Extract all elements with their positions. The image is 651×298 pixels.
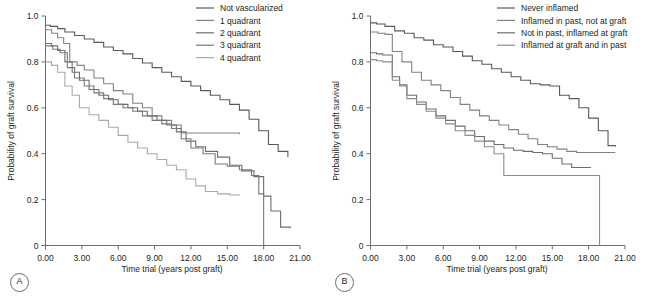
y-tick-label: 0.2 [352, 195, 364, 205]
y-tick-label: 0.8 [352, 57, 364, 67]
panel-b-axes [371, 16, 626, 246]
panel-b-x-ticks: 0.003.006.009.0012.0015.0018.0021.00 [362, 246, 636, 263]
x-tick-label: 15.00 [217, 253, 239, 263]
x-tick-label: 18.00 [578, 253, 600, 263]
x-tick-label: 0.00 [37, 253, 54, 263]
y-tick-label: 0.4 [27, 149, 39, 159]
x-tick-label: 15.00 [542, 253, 564, 263]
panel-b-legend: Never inflamedInflamed in past, not at g… [497, 3, 628, 50]
survival-curve [371, 60, 600, 246]
x-tick-label: 3.00 [74, 253, 91, 263]
legend-label: Inflamed in past, not at graft [521, 16, 627, 26]
panel-a-x-ticks: 0.003.006.009.0012.0015.0018.0021.00 [37, 246, 311, 263]
x-tick-label: 9.00 [146, 253, 163, 263]
panel-a-legend: Not vascularized1 quadrant2 quadrant3 qu… [196, 3, 283, 63]
panel-b-curves [371, 23, 616, 246]
survival-curve [46, 46, 264, 246]
survival-figure: 00.20.40.60.81.0 0.003.006.009.0012.0015… [0, 0, 651, 298]
y-tick-label: 1.0 [27, 11, 39, 21]
x-tick-label: 3.00 [399, 253, 416, 263]
x-tick-label: 0.00 [362, 253, 379, 263]
x-tick-label: 21.00 [614, 253, 636, 263]
y-tick-label: 0.6 [352, 103, 364, 113]
legend-label: 1 quadrant [220, 16, 261, 26]
x-tick-label: 6.00 [435, 253, 452, 263]
x-tick-label: 9.00 [471, 253, 488, 263]
panel-letter-b: B [335, 273, 354, 292]
panel-b: 00.20.40.60.81.0 0.003.006.009.0012.0015… [325, 0, 650, 298]
legend-label: 2 quadrant [220, 28, 261, 38]
y-tick-label: 0 [359, 241, 364, 251]
y-axis-title: Probability of graft survival [331, 81, 341, 181]
y-axis-title: Probability of graft survival [6, 81, 16, 181]
y-tick-label: 0.8 [27, 57, 39, 67]
x-tick-label: 12.00 [505, 253, 527, 263]
y-tick-label: 0.6 [27, 103, 39, 113]
legend-label: 3 quadrant [220, 40, 261, 50]
legend-label: 4 quadrant [220, 53, 261, 63]
x-tick-label: 6.00 [110, 253, 127, 263]
y-tick-label: 0.2 [27, 195, 39, 205]
panel-a-plot: 00.20.40.60.81.0 0.003.006.009.0012.0015… [0, 0, 325, 298]
survival-curve [46, 44, 291, 229]
panel-letter-a: A [10, 273, 29, 292]
y-tick-label: 0 [34, 241, 39, 251]
panel-b-plot: 00.20.40.60.81.0 0.003.006.009.0012.0015… [325, 0, 650, 298]
x-axis-title: Time trial (years post graft) [446, 264, 547, 274]
x-tick-label: 21.00 [289, 253, 311, 263]
legend-label: Inflamed at graft and in past [521, 40, 627, 50]
y-tick-label: 0.4 [352, 149, 364, 159]
x-axis-title: Time trial (years post graft) [121, 264, 222, 274]
panel-a: 00.20.40.60.81.0 0.003.006.009.0012.0015… [0, 0, 325, 298]
survival-curve [371, 53, 592, 168]
legend-label: Not vascularized [220, 3, 283, 13]
legend-label: Never inflamed [521, 3, 578, 13]
legend-label: Not in past, inflamed at graft [521, 28, 628, 38]
x-tick-label: 12.00 [180, 253, 202, 263]
survival-curve [46, 62, 240, 196]
x-tick-label: 18.00 [253, 253, 275, 263]
panel-b-y-ticks: 00.20.40.60.81.0 [352, 11, 371, 251]
panel-a-y-ticks: 00.20.40.60.81.0 [27, 11, 46, 251]
y-tick-label: 1.0 [352, 11, 364, 21]
